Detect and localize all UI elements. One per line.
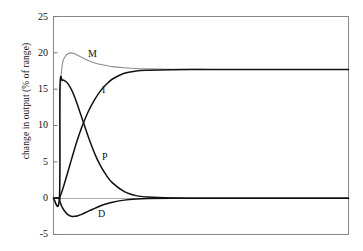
curve-label-p: P [102, 152, 108, 162]
curve-label-m: M [88, 49, 97, 59]
curve-label-i: I [102, 85, 105, 95]
curve-group [54, 53, 349, 217]
series-line-i [54, 70, 349, 199]
chart-container: change in output (% of range) 25 20 15 1… [0, 0, 363, 251]
plot-area [0, 0, 363, 251]
series-line-m [54, 53, 349, 206]
curve-label-d: D [98, 209, 105, 219]
plot-frame [54, 17, 349, 235]
